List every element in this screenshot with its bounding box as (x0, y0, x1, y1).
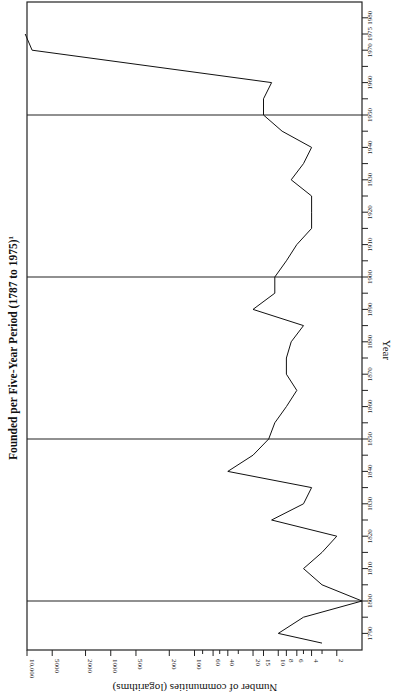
year-tick-label: 1820 (366, 529, 374, 544)
data-series-line (25, 34, 362, 643)
chart-title: Founded per Five-Year Period (1787 to 19… (7, 235, 20, 460)
value-tick-label: 500 (136, 659, 144, 670)
reference-lines (27, 115, 362, 601)
year-tick-label: 1980 (366, 10, 374, 25)
year-tick-label: 1950 (366, 108, 374, 123)
value-tick-label: 5000 (53, 659, 61, 674)
year-tick-label: 1850 (366, 432, 374, 447)
value-tick-label: 20 (254, 659, 262, 667)
value-tick-label: 15 (264, 659, 272, 667)
year-tick-label: 1860 (366, 399, 374, 414)
year-tick-label: 1900 (366, 270, 374, 285)
series-line (25, 34, 362, 643)
year-tick-label: 1870 (366, 367, 374, 382)
value-tick-label: 10 (279, 659, 287, 667)
value-axis-title: Number of communities (logarithms) (112, 681, 277, 694)
value-tick-label: 200 (170, 659, 178, 670)
year-tick-label: 1920 (366, 205, 374, 220)
year-tick-label: 1975 (366, 27, 374, 42)
value-tick-label: 60 (214, 659, 222, 667)
year-tick-label: 1880 (366, 334, 374, 349)
value-tick-label: 10,000 (28, 659, 36, 679)
year-tick-label: 1790 (366, 626, 374, 641)
value-tick-label: 100 (195, 659, 203, 670)
plot-frame (27, 2, 362, 650)
year-axis: 1790180018101820183018401850186018701880… (362, 10, 374, 640)
year-tick-label: 1940 (366, 140, 374, 155)
value-tick-label: 6 (297, 659, 305, 663)
value-tick-label: 8 (287, 659, 295, 663)
value-tick-label: 2 (337, 659, 345, 663)
year-tick-label: 1840 (366, 464, 374, 479)
year-tick-label: 1800 (366, 594, 374, 609)
value-tick-label: 1000 (111, 659, 119, 674)
value-tick-label: 2000 (86, 659, 94, 674)
year-tick-label: 1890 (366, 302, 374, 317)
year-axis-title: Year (381, 340, 393, 361)
year-tick-label: 1810 (366, 561, 374, 576)
year-tick-label: 1970 (366, 43, 374, 58)
chart: 10,0005000200010005002001006040201510864… (0, 0, 395, 695)
value-tick-label: 40 (228, 659, 236, 667)
year-tick-label: 1830 (366, 496, 374, 511)
year-tick-label: 1960 (366, 75, 374, 90)
year-tick-label: 1930 (366, 172, 374, 187)
value-tick-label: 4 (312, 659, 320, 663)
year-tick-label: 1910 (366, 237, 374, 252)
value-axis: 10,0005000200010005002001006040201510864… (27, 650, 345, 679)
